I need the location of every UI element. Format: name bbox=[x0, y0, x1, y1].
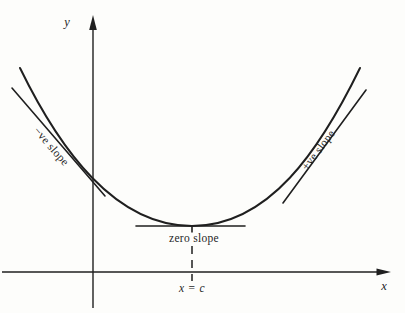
y-axis-label: y bbox=[62, 15, 70, 29]
zero-slope-label: zero slope bbox=[169, 232, 219, 245]
slope-diagram: y x −ve slope zero slope +ve slope x = c bbox=[0, 0, 405, 313]
figure-canvas: y x −ve slope zero slope +ve slope x = c bbox=[0, 0, 405, 313]
x-equals-c-label: x = c bbox=[178, 282, 205, 294]
x-axis-label: x bbox=[380, 279, 387, 293]
